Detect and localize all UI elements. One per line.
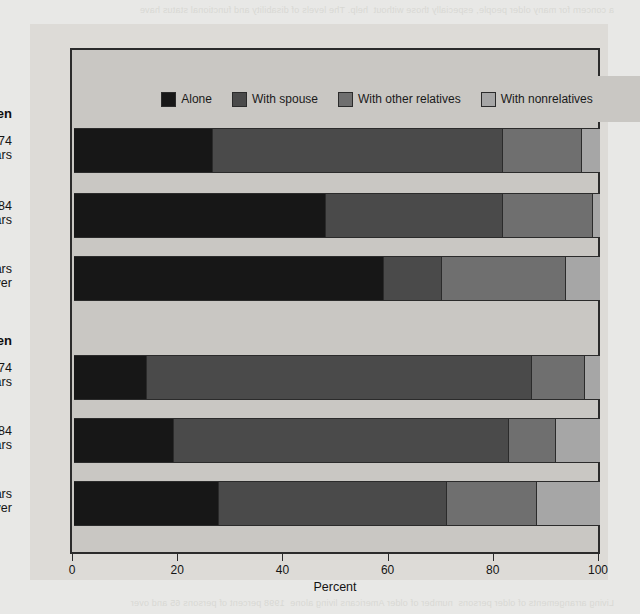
bar-segment[interactable] (74, 355, 147, 400)
legend-swatch-icon (161, 92, 176, 107)
bar-segment[interactable] (213, 128, 502, 173)
category-label-line: and over (0, 276, 12, 290)
category-label-line: years (0, 375, 12, 389)
category-label-line: years (0, 438, 12, 452)
category-label-line: 65-74 (0, 361, 12, 375)
x-axis-tick (282, 554, 283, 561)
bar-segment[interactable] (509, 418, 556, 463)
bar-segment[interactable] (566, 256, 600, 301)
category-label-line: 65-74 (0, 134, 12, 148)
bar-segment[interactable] (447, 481, 536, 526)
x-axis-tick-label: 100 (588, 563, 608, 577)
bar-row[interactable] (74, 256, 600, 301)
bar-segment[interactable] (585, 355, 600, 400)
legend-item[interactable]: Alone (161, 92, 212, 107)
bar-segment[interactable] (74, 481, 219, 526)
bar-segment[interactable] (174, 418, 509, 463)
page-bleed-through-bottom: Living arrangements of older persons num… (0, 597, 628, 610)
figure-panel: AloneWith spouseWith other relativesWith… (30, 24, 608, 580)
category-label-line: 85 years (0, 262, 12, 276)
legend-swatch-icon (481, 92, 496, 107)
category-label: 65-74years (0, 361, 12, 389)
group-label-women: Women (0, 106, 12, 121)
bar-segment[interactable] (74, 193, 326, 238)
legend-swatch-icon (338, 92, 353, 107)
bar-row[interactable] (74, 418, 600, 463)
bar-segment[interactable] (384, 256, 442, 301)
bar-row[interactable] (74, 193, 600, 238)
legend-swatch-icon (232, 92, 247, 107)
legend-item[interactable]: With other relatives (338, 92, 461, 107)
category-label: 85 yearsand over (0, 487, 12, 515)
legend-label: With spouse (252, 92, 318, 106)
bar-segment[interactable] (503, 128, 582, 173)
x-axis: 020406080100 (70, 554, 600, 562)
bar-segment[interactable] (537, 481, 600, 526)
legend-label: Alone (181, 92, 212, 106)
legend-label: With nonrelatives (501, 92, 593, 106)
bar-segment[interactable] (74, 256, 384, 301)
bar-segment[interactable] (74, 128, 213, 173)
x-axis-tick-label: 80 (486, 563, 499, 577)
bar-segment[interactable] (147, 355, 532, 400)
legend-item[interactable]: With nonrelatives (481, 92, 593, 107)
category-label-line: years (0, 213, 12, 227)
category-label-line: 75-84 (0, 424, 12, 438)
bar-row[interactable] (74, 481, 600, 526)
legend-label: With other relatives (358, 92, 461, 106)
x-axis-title: Percent (70, 580, 600, 594)
category-label-line: years (0, 148, 12, 162)
bar-row[interactable] (74, 355, 600, 400)
x-axis-tick-label: 60 (381, 563, 394, 577)
legend-item[interactable]: With spouse (232, 92, 318, 107)
x-axis-tick-label: 40 (276, 563, 289, 577)
page-bleed-through-top: a concern for many older people, especia… (0, 4, 628, 17)
category-label: 75-84years (0, 199, 12, 227)
category-label: 65-74years (0, 134, 12, 162)
bar-segment[interactable] (74, 418, 174, 463)
bar-segment[interactable] (532, 355, 585, 400)
bar-segment[interactable] (582, 128, 600, 173)
plot-area: AloneWith spouseWith other relativesWith… (70, 48, 600, 554)
category-label-line: 85 years (0, 487, 12, 501)
category-label: 75-84years (0, 424, 12, 452)
bar-segment[interactable] (219, 481, 448, 526)
bar-segment[interactable] (556, 418, 600, 463)
x-axis-tick (177, 554, 178, 561)
x-axis-tick (388, 554, 389, 561)
x-axis-tick-label: 20 (171, 563, 184, 577)
bar-segment[interactable] (593, 193, 600, 238)
category-label-line: 75-84 (0, 199, 12, 213)
x-axis-tick (72, 554, 73, 561)
x-axis-tick (598, 554, 599, 561)
bar-segment[interactable] (442, 256, 566, 301)
bar-row[interactable] (74, 128, 600, 173)
category-label-line: and over (0, 501, 12, 515)
category-label: 85 yearsand over (0, 262, 12, 290)
group-label-men: Men (0, 333, 12, 348)
x-axis-tick-label: 0 (69, 563, 76, 577)
chart-legend: AloneWith spouseWith other relativesWith… (114, 76, 640, 122)
bar-segment[interactable] (503, 193, 593, 238)
bar-segment[interactable] (326, 193, 502, 238)
x-axis-tick (493, 554, 494, 561)
